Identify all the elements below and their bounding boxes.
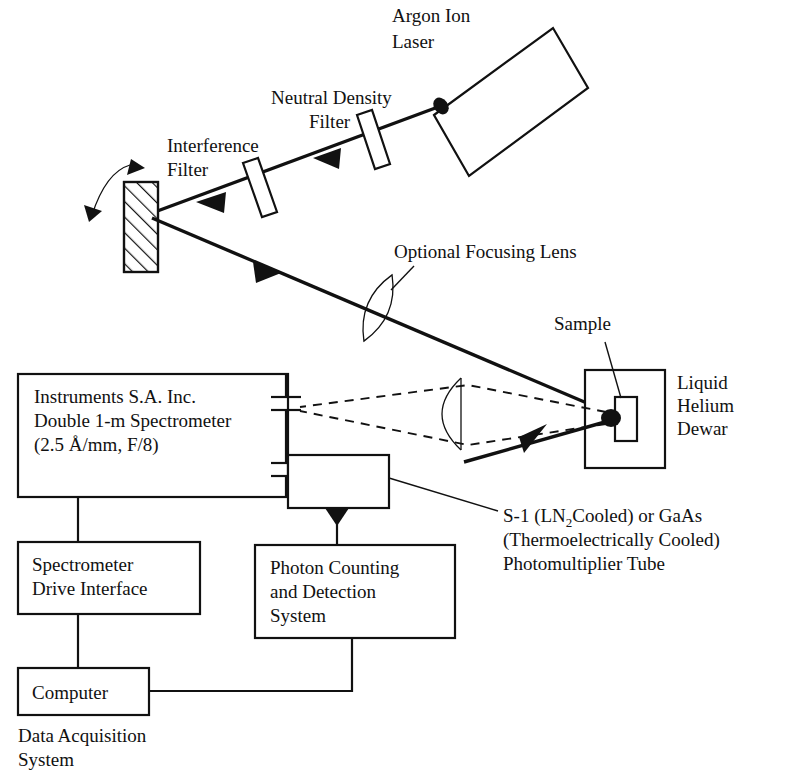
photon-counting-label-line1: Photon Counting xyxy=(270,557,400,578)
photon-counting-label-line2: and Detection xyxy=(270,581,377,602)
spectrometer-group: Instruments S.A. Inc. Double 1-m Spectro… xyxy=(18,374,301,497)
drive-interface-label-line2: Drive Interface xyxy=(32,578,148,599)
photon-counting-label-line3: System xyxy=(270,605,326,626)
dewar-label-line1: Liquid xyxy=(677,372,728,393)
neutral-density-filter-label-line1: Neutral Density xyxy=(271,87,392,108)
schematic-canvas: Argon Ion Laser Neutral Density Filter I… xyxy=(0,0,786,775)
mirror-hatching xyxy=(124,182,158,272)
interference-filter-label-line2: Filter xyxy=(167,159,209,180)
optional-focusing-lens-label: Optional Focusing Lens xyxy=(394,241,577,262)
dewar-label-line3: Dewar xyxy=(677,418,728,439)
spectrometer-label-line3: (2.5 Å/mm, F/8) xyxy=(34,434,159,456)
photomultiplier-label-line3: Photomultiplier Tube xyxy=(503,553,665,574)
photomultiplier-label-line2: (Thermoelectrically Cooled) xyxy=(503,529,720,551)
data-acquisition-label-line1: Data Acquisition xyxy=(18,725,147,746)
drive-interface-label-line1: Spectrometer xyxy=(32,554,134,575)
pmt-label-part-a: S-1 (LN xyxy=(503,505,566,527)
dewar-label-line2: Helium xyxy=(677,395,734,416)
photomultiplier-tube-body xyxy=(288,455,389,508)
neutral-density-filter-label-line2: Filter xyxy=(309,111,351,132)
computer-label: Computer xyxy=(32,682,109,703)
argon-ion-laser-label-line2: Laser xyxy=(392,31,435,52)
spectrometer-label-line1: Instruments S.A. Inc. xyxy=(34,386,196,407)
interference-filter-label-line1: Interference xyxy=(167,135,259,156)
argon-ion-laser-label-line1: Argon Ion xyxy=(392,5,471,26)
spectrometer-label-line2: Double 1-m Spectrometer xyxy=(34,410,232,431)
sample-label: Sample xyxy=(554,313,611,334)
data-acquisition-label-line2: System xyxy=(18,749,74,770)
pmt-label-part-b: Cooled) or GaAs xyxy=(572,505,702,527)
schematic-diagram: Argon Ion Laser Neutral Density Filter I… xyxy=(0,0,786,775)
